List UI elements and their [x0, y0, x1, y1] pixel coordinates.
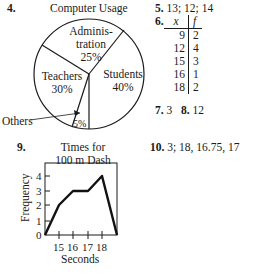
table-row: 15 3 [164, 55, 202, 68]
svg-text:15: 15 [53, 241, 65, 253]
table-row: 12 4 [164, 42, 202, 55]
svg-text:Frequency: Frequency [19, 173, 32, 222]
svg-text:2: 2 [36, 199, 42, 211]
cell-x: 15 [164, 55, 189, 68]
problem-10-number: 10. [150, 141, 164, 153]
cell-f: 1 [189, 68, 202, 81]
pie-label-others-pct: 5% [73, 118, 86, 129]
cell-f: 4 [189, 42, 202, 55]
table-row: 16 1 [164, 68, 202, 81]
cell-x: 9 [164, 29, 189, 43]
frequency-table: x f 9 2 12 4 15 3 16 1 18 2 [164, 15, 202, 94]
svg-text:1: 1 [36, 215, 42, 227]
problem-5-number: 5. [155, 2, 164, 14]
cell-f: 3 [189, 55, 202, 68]
cell-f: 2 [189, 29, 202, 43]
pie-label-students: Students 40% [98, 68, 148, 94]
pie-label-teachers: Teachers 30% [37, 70, 87, 96]
cell-x: 12 [164, 42, 189, 55]
svg-text:3: 3 [36, 185, 42, 197]
cell-x: 16 [164, 68, 189, 81]
svg-text:17: 17 [82, 241, 94, 253]
problem-5-answer: 13; 12; 14 [167, 2, 214, 14]
cell-x: 18 [164, 81, 189, 94]
problem-7-answer: 3 [167, 104, 173, 116]
header-f: f [189, 15, 202, 29]
problem-7-8: 7. 3 8. 12 [155, 104, 204, 117]
problem-10: 10. 3; 18, 16.75, 17 [150, 141, 239, 154]
problem-9-number: 9. [17, 141, 26, 154]
frequency-table-header: x f [164, 15, 202, 29]
svg-text:4: 4 [36, 170, 42, 182]
problem-6-number: 6. [155, 15, 164, 28]
problem-8-answer: 12 [192, 104, 204, 116]
svg-text:Seconds: Seconds [61, 253, 100, 265]
pie-label-administration: Adminis- tration 25% [66, 25, 116, 64]
table-row: 9 2 [164, 29, 202, 43]
table-row: 18 2 [164, 81, 202, 94]
header-x: x [164, 15, 189, 29]
svg-text:0: 0 [36, 229, 42, 241]
problem-7-number: 7. [155, 104, 164, 116]
pie-label-others: Others [2, 115, 33, 128]
frequency-polygon-chart: 4 3 2 1 0 15 16 17 18 Seconds Frequency [0, 155, 130, 274]
svg-text:16: 16 [67, 241, 79, 253]
svg-text:18: 18 [96, 241, 108, 253]
problem-8-number: 8. [181, 104, 190, 116]
problem-10-answer: 3; 18, 16.75, 17 [167, 141, 239, 153]
cell-f: 2 [189, 81, 202, 94]
problem-5: 5. 13; 12; 14 [155, 2, 213, 15]
